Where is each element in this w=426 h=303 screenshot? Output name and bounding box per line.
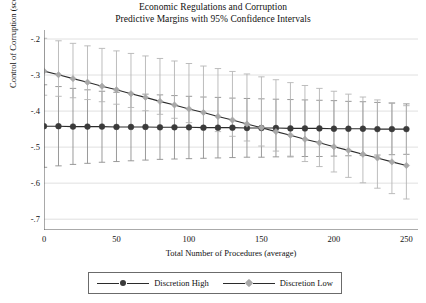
legend-line-dark (97, 283, 119, 284)
legend-label-discretion-high: Discretion High (154, 278, 209, 288)
y-tick-label: -.2 (31, 34, 40, 44)
chart-subtitle: Predictive Margins with 95% Confidence I… (0, 14, 426, 26)
legend-line-gray (253, 283, 275, 284)
chart-figure: Economic Regulations and Corruption Pred… (0, 0, 426, 303)
chart-legend: Discretion High Discretion Low (88, 272, 342, 294)
legend-marker-circle-icon (120, 280, 126, 286)
y-tick-label: -.4 (31, 106, 40, 116)
legend-item-discretion-low[interactable]: Discretion Low (223, 278, 333, 288)
y-axis-title: Control of Corruption (score) (8, 0, 18, 88)
plot-canvas (44, 30, 418, 230)
plot-area: -.2-.3-.4-.5-.6-.7 050100150200250 Contr… (44, 30, 418, 230)
x-tick-label: 150 (255, 234, 268, 244)
chart-title-block: Economic Regulations and Corruption Pred… (0, 2, 426, 25)
y-tick-label: -.7 (31, 214, 40, 224)
x-axis-title: Total Number of Procedures (average) (44, 248, 418, 258)
y-tick-label: -.5 (31, 142, 40, 152)
chart-title: Economic Regulations and Corruption (0, 2, 426, 14)
x-tick-label: 200 (328, 234, 341, 244)
legend-marker-diamond-icon (244, 279, 252, 287)
x-tick-label: 0 (42, 234, 46, 244)
y-tick-label: -.3 (31, 70, 40, 80)
legend-line-dark (127, 283, 149, 284)
x-tick-label: 250 (400, 234, 413, 244)
x-tick-label: 50 (112, 234, 121, 244)
legend-line-gray (223, 283, 245, 284)
legend-item-discretion-high[interactable]: Discretion High (97, 278, 209, 288)
legend-label-discretion-low: Discretion Low (280, 278, 333, 288)
y-tick-label: -.6 (31, 178, 40, 188)
x-tick-label: 100 (183, 234, 196, 244)
